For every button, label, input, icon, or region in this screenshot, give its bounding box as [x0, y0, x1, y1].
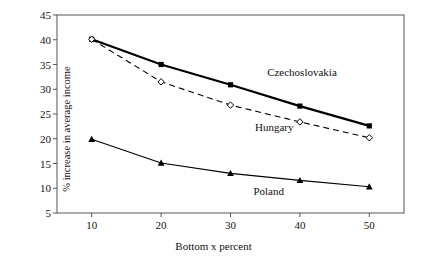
x-tick-label: 30	[225, 219, 236, 231]
x-tick-label: 40	[294, 219, 305, 231]
x-tick-label: 50	[364, 219, 375, 231]
chart-figure: 510152025303540451020304050 % increase i…	[0, 0, 427, 257]
y-tick-label: 10	[27, 182, 51, 194]
series-label-czechoslovakia: Czechoslovakia	[267, 66, 337, 78]
x-tick-label: 20	[156, 219, 167, 231]
axis-ticks	[53, 15, 369, 217]
y-tick-label: 35	[27, 59, 51, 71]
y-tick-label: 45	[27, 9, 51, 21]
y-tick-label: 30	[27, 83, 51, 95]
y-tick-label: 25	[27, 108, 51, 120]
series-label-poland: Poland	[253, 185, 284, 197]
y-tick-label: 15	[27, 158, 51, 170]
data-series-group	[88, 36, 372, 189]
x-tick-label: 10	[86, 219, 97, 231]
x-axis-label: Bottom x percent	[0, 240, 427, 252]
y-axis-label: % increase in average income	[61, 66, 72, 191]
y-tick-label: 20	[27, 133, 51, 145]
series-label-hungary: Hungary	[255, 121, 294, 133]
y-tick-label: 40	[27, 34, 51, 46]
y-tick-label: 5	[27, 207, 51, 219]
